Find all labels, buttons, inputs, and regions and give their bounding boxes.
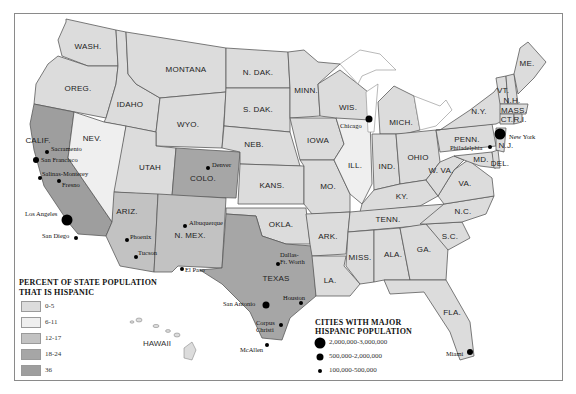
legend-swatch-label: 18-24	[45, 350, 61, 358]
cities-legend-title-2: HISPANIC POPULATION	[315, 327, 412, 336]
state-label-nh: N.H.	[504, 96, 521, 105]
city-label: El Paso	[185, 266, 205, 273]
state-label-or: OREG.	[65, 84, 92, 93]
state-label-ne: NEB.	[244, 140, 263, 149]
legend-swatch-label: 36	[45, 366, 52, 374]
state-label-nj: N.J.	[498, 141, 513, 150]
state-label-mn: MINN.	[294, 86, 318, 95]
state-label-ut: UTAH	[139, 163, 161, 172]
legend-swatch-label: 6-11	[45, 318, 58, 326]
lake	[414, 96, 452, 130]
city-label: Houston	[283, 294, 305, 301]
city-label: Fresno	[62, 181, 80, 188]
city-label: Salinas-Monterey	[42, 170, 88, 177]
city-dot-icon	[488, 145, 492, 149]
state-mi	[378, 86, 420, 134]
city-label: Albuquerque	[189, 219, 223, 226]
lake	[366, 84, 378, 132]
state-label-al: ALA.	[384, 250, 402, 259]
state-label-pa: PENN.	[454, 135, 479, 144]
state-label-la: LA.	[324, 276, 337, 285]
state-label-wa: WASH.	[75, 42, 102, 51]
states-layer	[30, 19, 546, 360]
city-dot-icon	[125, 238, 129, 242]
percent-legend-title-1: PERCENT OF STATE POPULATION	[19, 278, 157, 287]
state-label-ky: KY.	[396, 192, 408, 201]
city-dot-icon	[299, 301, 303, 305]
us-map	[0, 0, 576, 394]
city-dot-icon	[33, 157, 39, 163]
city-size-label: 500,000-2,000,000	[329, 352, 382, 360]
percent-legend-title-2: THAT IS HISPANIC	[19, 288, 94, 297]
city-label: Philadelphia	[450, 144, 483, 151]
state-label-tn: TENN.	[376, 215, 401, 224]
legend-swatch-label: 12-17	[45, 334, 61, 342]
state-az	[106, 192, 158, 272]
city-dot-icon	[279, 323, 283, 327]
state-label-co: COLO.	[190, 174, 216, 183]
city-dot-icon	[265, 343, 269, 347]
legend-swatch	[21, 365, 41, 376]
city-size-dot-icon	[315, 338, 326, 349]
city-size-label: 2,000,000-3,000,000	[329, 338, 387, 346]
city-size-dot-icon	[318, 369, 322, 373]
city-label: Corpus Christi	[256, 319, 275, 333]
city-label: Los Angeles	[25, 210, 57, 217]
city-label: San Diego	[42, 232, 69, 239]
state-label-mo: MO.	[320, 182, 336, 191]
city-label: Dallas- Ft. Worth	[280, 251, 305, 265]
state-label-sc: S.C.	[442, 232, 458, 241]
state-me	[514, 42, 546, 94]
hawaii-label: HAWAII	[143, 339, 171, 348]
city-dot-icon	[180, 267, 184, 271]
city-label: Chicago	[340, 122, 362, 129]
city-dot-icon	[366, 116, 373, 123]
state-label-il: ILL.	[348, 161, 362, 170]
city-dot-icon	[74, 236, 78, 240]
city-dot-icon	[183, 224, 187, 228]
state-label-fl: FLA.	[443, 308, 461, 317]
state-label-ct: CT.	[501, 115, 514, 124]
state-label-mt: MONTANA	[166, 65, 207, 74]
city-label: McAllen	[240, 346, 263, 353]
cities-legend-title-1: CITIES WITH MAJOR	[315, 318, 401, 327]
city-dot-icon	[62, 215, 73, 226]
legend-swatch	[21, 301, 41, 312]
state-label-ma: MASS.	[501, 106, 527, 115]
state-label-wy: WYO.	[177, 120, 199, 129]
state-label-md: MD.	[473, 155, 488, 164]
state-label-ar: ARK.	[318, 232, 337, 241]
state-label-az: ARIZ.	[116, 207, 137, 216]
state-label-nm: N. MEX.	[174, 231, 205, 240]
state-label-ca: CALIF.	[25, 136, 50, 145]
state-label-me: ME.	[520, 59, 535, 68]
state-label-nc: N.C.	[455, 207, 472, 216]
legend-swatch	[21, 317, 41, 328]
city-dot-icon	[57, 179, 61, 183]
state-label-mi: MICH.	[389, 118, 413, 127]
state-label-ok: OKLA.	[269, 220, 294, 229]
city-label: Denver	[212, 161, 231, 168]
city-label: San Antonio	[223, 300, 255, 307]
state-label-ny: N.Y.	[471, 107, 486, 116]
city-label: Tucson	[138, 249, 157, 256]
state-label-wv: W. VA.	[428, 166, 453, 175]
state-label-ri: R.I.	[513, 115, 526, 124]
city-dot-icon	[263, 302, 270, 309]
legend-swatch	[21, 333, 41, 344]
legend-swatch	[21, 349, 41, 360]
state-label-ga: GA.	[417, 245, 431, 254]
city-label: San Francisco	[41, 156, 78, 163]
city-size-label: 100,000-500,000	[329, 366, 377, 374]
legend-swatch-label: 0-5	[45, 302, 54, 310]
city-dot-icon	[495, 129, 506, 140]
state-label-wi: WIS.	[339, 103, 357, 112]
city-label: New York	[509, 133, 535, 140]
state-label-sd: S. DAK.	[243, 105, 273, 114]
state-label-nd: N. DAK.	[243, 68, 273, 77]
state-label-de: DEL.	[491, 159, 510, 168]
city-dot-icon	[45, 150, 49, 154]
state-label-vt: VT.	[497, 86, 509, 95]
state-label-ks: KANS.	[259, 181, 284, 190]
state-label-tx: TEXAS	[262, 274, 289, 283]
